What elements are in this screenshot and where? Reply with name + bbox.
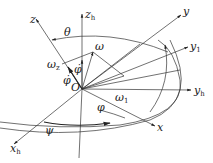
label-origin: O	[71, 81, 80, 94]
label-omega-z: ωz	[47, 58, 60, 72]
label-phi: φ	[97, 101, 105, 114]
vector-omega-1	[82, 76, 124, 89]
label-phi-dot-upper: φ̇	[74, 63, 82, 76]
label-omega: ω	[95, 40, 104, 53]
label-y: y	[182, 5, 190, 18]
label-z: z	[29, 13, 36, 26]
label-omega-1: ω1	[115, 91, 128, 105]
label-y-1: y1	[189, 40, 201, 54]
euler-angle-diagram: z zh y y1 yh x xh O ω ωz ω1 θ φ̇ φ̇ φ ψ	[0, 0, 213, 163]
arc-y	[150, 45, 167, 112]
axis-vertical-down	[79, 89, 82, 158]
label-phi-dot-lower: φ̇	[63, 74, 71, 87]
axis-y-1	[82, 47, 188, 89]
label-x: x	[157, 121, 164, 134]
label-psi: ψ	[45, 124, 54, 137]
axis-y-h	[82, 89, 191, 90]
label-x-h: xh	[10, 142, 21, 156]
arc-psi	[44, 122, 110, 125]
label-z-h: zh	[84, 8, 96, 22]
label-y-h: yh	[193, 84, 205, 98]
label-theta: θ	[64, 26, 71, 39]
